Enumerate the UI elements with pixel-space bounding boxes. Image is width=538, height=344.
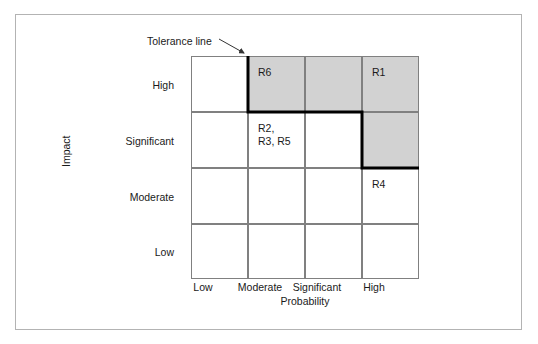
- matrix-cell-significant-low[interactable]: [191, 112, 248, 168]
- matrix-cell-low-moderate[interactable]: [248, 224, 305, 279]
- risk-label-r6: R6: [258, 66, 271, 79]
- x-axis-title: Probability: [191, 295, 419, 307]
- matrix-cell-low-significant[interactable]: [305, 224, 362, 279]
- y-tick-label-low: Low: [94, 246, 174, 258]
- tolerance-line-callout-label: Tolerance line: [147, 35, 212, 47]
- matrix-cell-significant-high[interactable]: [362, 112, 419, 168]
- matrix-cell-moderate-significant[interactable]: [305, 168, 362, 224]
- x-tick-label-high: High: [334, 281, 414, 293]
- risk-matrix-grid: R6 R1 R2, R3, R5 R4: [191, 56, 419, 279]
- matrix-cell-high-moderate[interactable]: R6: [248, 56, 305, 112]
- matrix-cell-moderate-high[interactable]: R4: [362, 168, 419, 224]
- y-tick-label-significant: Significant: [94, 135, 174, 147]
- matrix-cell-moderate-low[interactable]: [191, 168, 248, 224]
- matrix-cell-low-high[interactable]: [362, 224, 419, 279]
- risk-label-r4: R4: [372, 178, 385, 191]
- y-axis-title: Impact: [60, 135, 72, 167]
- y-tick-label-high: High: [94, 79, 174, 91]
- matrix-cell-high-low[interactable]: [191, 56, 248, 112]
- matrix-cell-high-high[interactable]: R1: [362, 56, 419, 112]
- matrix-cell-low-low[interactable]: [191, 224, 248, 279]
- matrix-cell-high-significant[interactable]: [305, 56, 362, 112]
- figure-frame: Impact High Significant Moderate Low Low…: [15, 14, 522, 330]
- matrix-cell-moderate-moderate[interactable]: [248, 168, 305, 224]
- risk-label-r1: R1: [372, 66, 385, 79]
- matrix-cell-significant-moderate[interactable]: R2, R3, R5: [248, 112, 305, 168]
- risk-label-r2-r3-r5: R2, R3, R5: [258, 122, 291, 147]
- matrix-cell-significant-significant[interactable]: [305, 112, 362, 168]
- y-tick-label-moderate: Moderate: [94, 191, 174, 203]
